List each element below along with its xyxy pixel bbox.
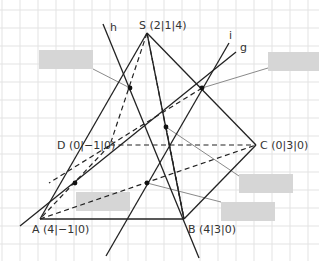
label-D: D (0|−1|0) [57,139,115,152]
diagram-canvas: S (2|1|4) A (4|−1|0) B (4|3|0) C (0|3|0)… [0,0,319,261]
line-h [103,24,199,258]
label-line-g: g [240,41,247,54]
answer-box-4[interactable] [76,192,130,211]
point-marker [73,181,78,186]
label-S: S (2|1|4) [139,19,186,32]
answer-box-3[interactable] [239,174,293,193]
point-marker [164,125,169,130]
point-marker [128,86,133,91]
answer-box-5[interactable] [221,202,275,221]
label-line-i: i [229,29,232,42]
label-B: B (4|3|0) [188,223,236,236]
answer-box-2[interactable] [268,52,319,71]
pyramid-diagram: S (2|1|4) A (4|−1|0) B (4|3|0) C (0|3|0)… [0,0,319,261]
answer-box-1[interactable] [39,50,93,69]
label-A: A (4|−1|0) [32,223,89,236]
label-C: C (0|3|0) [260,139,308,152]
point-marker [200,86,205,91]
point-marker [145,181,150,186]
background-grid [0,0,319,261]
label-line-h: h [110,21,117,34]
